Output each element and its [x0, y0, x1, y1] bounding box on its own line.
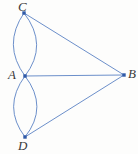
vertex-label-c: C: [18, 0, 27, 13]
vertex-label-b: B: [128, 67, 136, 80]
edge-a-c: [24, 13, 37, 76]
edge-a-d: [25, 76, 37, 137]
edge-c-b: [24, 13, 124, 75]
edge-a-d: [14, 76, 26, 137]
edge-layer: [13, 13, 124, 137]
vertex-label-a: A: [8, 68, 16, 81]
edge-a-b: [25, 75, 124, 76]
graph-canvas: [0, 0, 138, 154]
vertex-label-d: D: [18, 139, 27, 152]
vertex-b: [122, 73, 125, 76]
edge-d-b: [25, 75, 124, 137]
graph-figure: C A B D: [0, 0, 138, 154]
vertex-a: [23, 74, 26, 77]
